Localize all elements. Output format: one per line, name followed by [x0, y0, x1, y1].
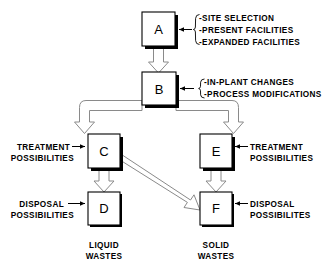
diagram-canvas: A B C D E F	[0, 0, 329, 272]
node-c-label: C	[99, 144, 108, 159]
annotation-f-line-1: DISPOSAL	[250, 200, 295, 209]
node-c[interactable]: C	[88, 134, 123, 171]
annotation-a-item-2: -PRESENT FACILITIES	[199, 26, 294, 35]
arrow-head-icon	[80, 144, 85, 148]
edge-c-to-f	[120, 154, 200, 211]
caption-solid-line-2: WASTES	[198, 252, 235, 261]
annotation-d-line-1: DISPOSAL	[19, 200, 64, 209]
caption-liquid-line-1: LIQUID	[89, 241, 119, 250]
node-b-label: B	[155, 82, 164, 97]
annotation-b-item-2: -PROCESS MODIFICATIONS	[204, 90, 322, 99]
node-a[interactable]: A	[142, 12, 178, 49]
annotation-a-item-1: -SITE SELECTION	[199, 14, 274, 23]
caption-liquid-line-2: WASTES	[86, 252, 123, 261]
flow-diagram: A B C D E F	[0, 0, 329, 272]
caption-solid-wastes: SOLID WASTES	[198, 241, 235, 261]
annotation-a-group: -SITE SELECTION -PRESENT FACILITIES -EXP…	[179, 14, 300, 47]
edge-c-to-d	[94, 168, 114, 192]
annotation-d-line-2: POSSIBILITIES	[11, 211, 74, 220]
edge-b-to-c	[75, 101, 143, 134]
node-d-label: D	[99, 201, 108, 216]
annotation-e-line-1: TREATMENT	[250, 143, 303, 152]
edge-b-to-e	[176, 101, 244, 134]
node-e[interactable]: E	[200, 134, 235, 171]
node-f[interactable]: F	[200, 192, 234, 227]
annotation-c-line-2: POSSIBILITIES	[11, 154, 74, 163]
annotation-a-item-3: -EXPANDED FACILITIES	[199, 38, 300, 47]
annotation-b-group: -IN-PLANT CHANGES -PROCESS MODIFICATIONS	[180, 78, 322, 99]
caption-liquid-wastes: LIQUID WASTES	[86, 241, 123, 261]
edge-e-to-f	[206, 168, 226, 192]
arrow-head-icon	[235, 201, 240, 205]
annotation-b-item-1: -IN-PLANT CHANGES	[204, 78, 294, 87]
arrow-head-icon	[80, 201, 85, 205]
node-b[interactable]: B	[142, 72, 179, 108]
annotation-f-line-2: POSSIBILITES	[250, 211, 311, 220]
arrow-head-icon	[180, 86, 185, 90]
node-d[interactable]: D	[88, 192, 122, 227]
node-e-label: E	[212, 144, 221, 159]
node-f-label: F	[212, 201, 220, 216]
node-a-label: A	[154, 22, 163, 37]
arrow-head-icon	[235, 144, 240, 148]
annotation-d-label: DISPOSAL POSSIBILITIES	[11, 200, 85, 220]
annotation-e-line-2: POSSIBILITIES	[250, 154, 313, 163]
caption-solid-line-1: SOLID	[203, 241, 230, 250]
annotation-f-label: DISPOSAL POSSIBILITES	[235, 200, 311, 220]
annotation-e-label: TREATMENT POSSIBILITIES	[235, 143, 313, 163]
edge-a-to-b	[149, 46, 169, 73]
annotation-c-label: TREATMENT POSSIBILITIES	[11, 143, 85, 163]
arrow-head-icon	[179, 27, 184, 31]
annotation-c-line-1: TREATMENT	[17, 143, 70, 152]
